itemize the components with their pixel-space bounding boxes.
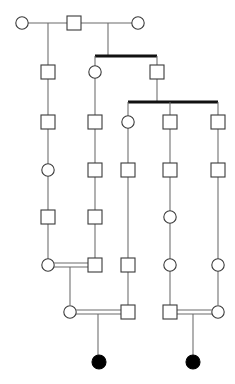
unaffected-male-symbol[interactable] [41,65,55,79]
unaffected-female-symbol[interactable] [42,259,54,271]
unaffected-female-symbol[interactable] [89,66,101,78]
unaffected-male-symbol[interactable] [163,163,177,177]
unaffected-male-symbol[interactable] [41,210,55,224]
unaffected-female-symbol[interactable] [16,17,28,29]
unaffected-male-symbol[interactable] [88,163,102,177]
unaffected-male-symbol[interactable] [163,305,177,319]
unaffected-female-symbol[interactable] [122,116,134,128]
unaffected-male-symbol[interactable] [121,305,135,319]
unaffected-female-symbol[interactable] [132,17,144,29]
affected-female-symbol[interactable] [186,355,200,369]
unaffected-male-symbol[interactable] [211,163,225,177]
unaffected-male-symbol[interactable] [211,115,225,129]
canvas-background [0,0,235,384]
unaffected-female-symbol[interactable] [42,164,54,176]
unaffected-male-symbol[interactable] [150,65,164,79]
unaffected-male-symbol[interactable] [121,258,135,272]
pedigree-canvas [0,0,235,384]
unaffected-male-symbol[interactable] [163,115,177,129]
unaffected-male-symbol[interactable] [67,16,81,30]
unaffected-female-symbol[interactable] [64,306,76,318]
unaffected-female-symbol[interactable] [164,259,176,271]
unaffected-female-symbol[interactable] [212,306,224,318]
unaffected-female-symbol[interactable] [212,259,224,271]
unaffected-male-symbol[interactable] [41,115,55,129]
pedigree-chart [0,0,235,384]
unaffected-male-symbol[interactable] [121,163,135,177]
unaffected-female-symbol[interactable] [164,211,176,223]
unaffected-male-symbol[interactable] [88,115,102,129]
unaffected-male-symbol[interactable] [88,258,102,272]
unaffected-male-symbol[interactable] [88,210,102,224]
affected-female-symbol[interactable] [92,355,106,369]
